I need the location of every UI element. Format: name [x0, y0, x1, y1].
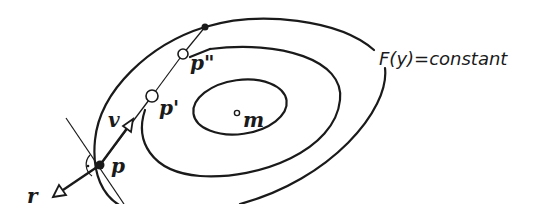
label-m: m [243, 110, 264, 130]
right-angle-dot [87, 165, 90, 168]
label-p-double-prime: p" [190, 53, 214, 73]
point-m [234, 110, 239, 115]
r-vector-shaft [63, 165, 100, 190]
label-v: v [108, 110, 120, 130]
contour-diagram: p p' p" v r m F(y)=constant [0, 0, 558, 204]
r-arrow-icon [53, 185, 66, 197]
diagram-graphics [0, 0, 558, 204]
label-p-prime: p' [159, 98, 179, 118]
label-p: p [111, 156, 125, 176]
point-p [96, 161, 105, 170]
point-p-double-prime [178, 49, 188, 59]
label-r: r [27, 186, 38, 204]
inner-contour [190, 74, 291, 141]
path-pprime-to-pdprime [152, 54, 183, 96]
point-p-prime [146, 90, 158, 102]
point-top [202, 24, 209, 31]
contour-label: F(y)=constant [379, 50, 507, 68]
